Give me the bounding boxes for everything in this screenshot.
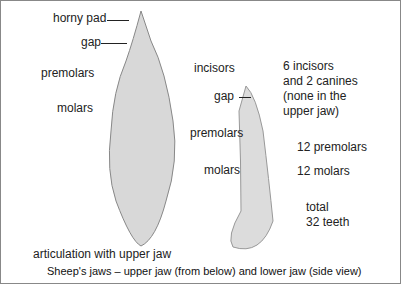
- note: (none in the: [283, 89, 346, 103]
- label-gap-upper: gap: [81, 35, 101, 49]
- label-molars-lower: molars: [204, 163, 240, 177]
- note: 12 molars: [297, 164, 350, 178]
- note: upper jaw): [283, 104, 339, 118]
- note: total: [306, 200, 329, 214]
- label-gap-lower: gap: [214, 89, 234, 103]
- label-articulation: articulation with upper jaw: [33, 247, 171, 261]
- label-premolars-lower: premolars: [190, 126, 243, 140]
- label-premolars-upper: premolars: [41, 66, 94, 80]
- label-horny-pad: horny pad: [53, 11, 106, 25]
- figure: horny pad gap premolars molars incisors …: [0, 0, 401, 284]
- note: and 2 canines: [283, 74, 358, 88]
- label-molars-upper: molars: [57, 101, 93, 115]
- caption: Sheep's jaws – upper jaw (from below) an…: [47, 265, 362, 277]
- note: 6 incisors: [283, 59, 334, 73]
- label-incisors: incisors: [194, 61, 235, 75]
- note: 32 teeth: [306, 215, 349, 229]
- note: 12 premolars: [297, 140, 367, 154]
